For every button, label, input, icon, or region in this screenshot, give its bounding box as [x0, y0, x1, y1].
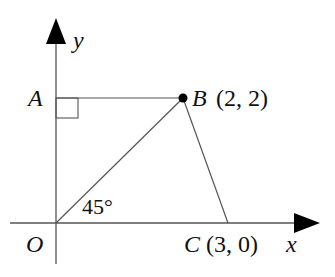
point-c-label: C — [184, 231, 201, 257]
coordinate-diagram: y A B (2, 2) 45° O C (3, 0) x — [0, 0, 335, 277]
right-angle-marker — [56, 98, 78, 118]
y-axis-arrow-icon — [46, 18, 66, 44]
y-axis-label: y — [71, 27, 84, 53]
angle-label: 45° — [82, 194, 113, 219]
point-b-dot — [179, 94, 188, 103]
x-axis-arrow-icon — [294, 213, 320, 233]
point-b-coords: (2, 2) — [216, 85, 268, 111]
segment-bc — [183, 98, 228, 223]
point-c-coords: (3, 0) — [206, 231, 258, 257]
origin-label: O — [26, 231, 43, 257]
point-a-label: A — [26, 85, 43, 111]
point-b-label: B — [192, 85, 207, 111]
segment-ob — [56, 98, 183, 223]
x-axis-label: x — [285, 231, 297, 257]
